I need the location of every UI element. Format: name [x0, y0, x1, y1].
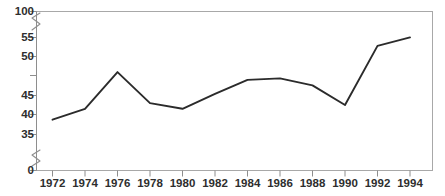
x-axis-labels: 1972197419761978198019821984198619881990… [0, 0, 445, 196]
line-chart: 10055504540350 1972197419761978198019821… [0, 0, 445, 196]
x-tick-label: 1994 [390, 178, 430, 190]
